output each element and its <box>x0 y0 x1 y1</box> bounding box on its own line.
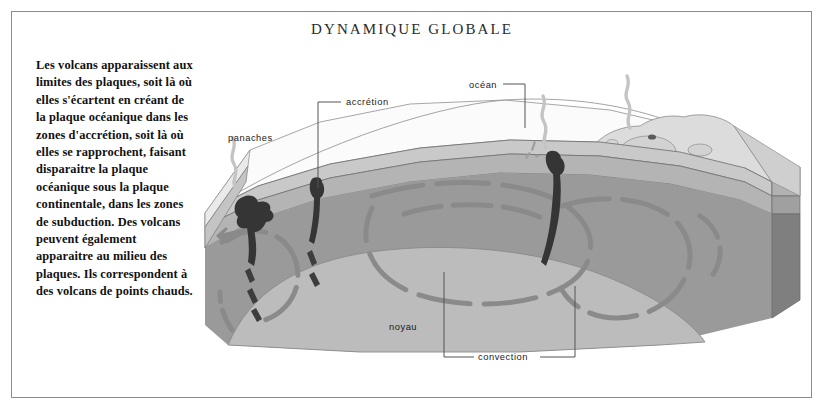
block-diagram: noyau <box>0 0 824 410</box>
figure-page: DYNAMIQUE GLOBALE Les volcans apparaisse… <box>0 0 824 410</box>
label-accretion: accrétion <box>346 97 389 107</box>
label-noyau: noyau <box>389 322 417 332</box>
plume-right <box>626 76 630 128</box>
label-panaches: panaches <box>228 133 273 143</box>
label-convection: convection <box>478 352 528 362</box>
plume-left <box>232 138 236 189</box>
label-ocean: océan <box>469 80 497 90</box>
plume-centre-right <box>542 96 546 148</box>
